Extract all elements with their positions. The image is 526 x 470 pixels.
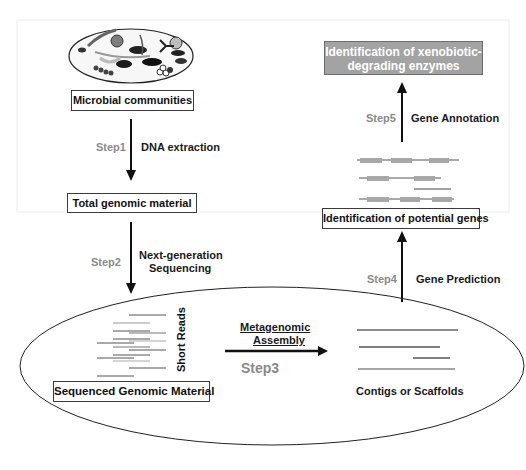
node-identification-potential-genes: Identification of potential genes: [322, 208, 480, 229]
step5-action: Gene Annotation: [411, 112, 499, 125]
step1-label: Step1: [96, 141, 126, 154]
gene-models-illustration: [357, 158, 459, 202]
node-identification-enzymes: Identification of xenobiotic- degrading …: [324, 41, 483, 75]
node-total-genomic-material: Total genomic material: [67, 193, 197, 213]
short-reads-label: Short Reads: [175, 308, 187, 372]
contigs-illustration: [357, 330, 458, 369]
step3-label: Step3: [241, 360, 279, 376]
step1-action: DNA extraction: [141, 141, 220, 154]
step2-action-line2: Sequencing: [149, 262, 211, 275]
step2-label: Step2: [91, 256, 121, 269]
microbial-community-illustration: [69, 29, 193, 83]
node-microbial-communities: Microbial communities: [71, 90, 194, 111]
step5-label: Step5: [366, 112, 396, 125]
step2-action-line1: Next-generation: [139, 249, 223, 262]
step4-action: Gene Prediction: [416, 273, 500, 286]
step3-action-line2: Assembly: [253, 334, 305, 347]
short-reads-illustration: [97, 315, 166, 376]
node-contigs-or-scaffolds: Contigs or Scaffolds: [356, 385, 464, 398]
step4-label: Step4: [367, 273, 397, 286]
enzymes-line-1: Identification of xenobiotic-: [325, 45, 482, 59]
enzymes-line-2: degrading enzymes: [325, 59, 482, 73]
node-sequenced-genomic-material: Sequenced Genomic Material: [53, 381, 210, 402]
step3-action-line1: Metagenomic: [240, 321, 310, 334]
